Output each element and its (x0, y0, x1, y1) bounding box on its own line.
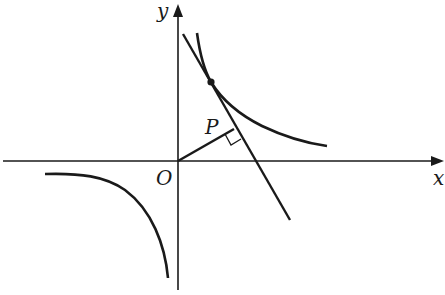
x-axis-label: x (433, 168, 444, 188)
right-angle-marker (225, 134, 241, 145)
diagram-svg (0, 0, 445, 295)
tangent-line (183, 34, 290, 220)
y-axis-arrow-icon (173, 4, 183, 17)
origin-label: O (156, 168, 172, 188)
x-axis-arrow-icon (431, 156, 444, 166)
tangent-point (207, 78, 214, 85)
point-p-label: P (205, 117, 218, 137)
hyperbola-lower-branch (45, 174, 168, 278)
diagram-canvas: y x O P (0, 0, 445, 295)
y-axis-label: y (157, 1, 168, 21)
